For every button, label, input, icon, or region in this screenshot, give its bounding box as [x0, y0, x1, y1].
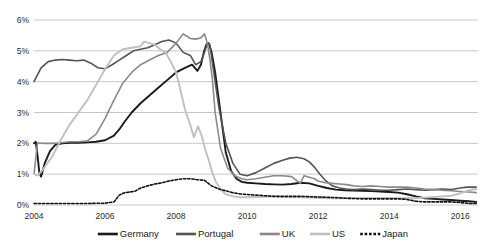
x-tick-label: 2014: [380, 211, 399, 221]
y-axis-tick-labels: 0%1%2%3%4%5%6%: [17, 15, 30, 210]
y-tick-label: 6%: [17, 15, 30, 25]
legend-label-us: US: [332, 228, 345, 239]
legend-label-uk: UK: [282, 228, 296, 239]
x-tick-label: 2012: [309, 211, 328, 221]
y-tick-label: 5%: [17, 46, 30, 56]
y-tick-label: 0%: [17, 200, 30, 210]
x-axis-tick-labels: 2004200620082010201220142016: [25, 211, 470, 221]
series-line-us: [34, 42, 476, 199]
legend-label-portugal: Portugal: [198, 228, 233, 239]
x-tick-label: 2008: [167, 211, 186, 221]
x-tick-label: 2016: [451, 211, 470, 221]
y-tick-label: 4%: [17, 77, 30, 87]
line-chart: 0%1%2%3%4%5%6% 2004200620082010201220142…: [0, 0, 500, 248]
y-tick-label: 1%: [17, 169, 30, 179]
x-tick-label: 2006: [96, 211, 115, 221]
series-line-portugal: [34, 40, 476, 190]
legend-label-japan: Japan: [382, 228, 408, 239]
data-series-group: [34, 34, 476, 204]
gridlines: [34, 20, 478, 205]
x-tick-label: 2004: [25, 211, 44, 221]
y-tick-label: 2%: [17, 138, 30, 148]
legend-label-germany: Germany: [120, 228, 159, 239]
chart-legend: GermanyPortugalUKUSJapan: [98, 228, 408, 239]
chart-container: 0%1%2%3%4%5%6% 2004200620082010201220142…: [0, 0, 500, 248]
x-tick-label: 2010: [238, 211, 257, 221]
series-line-uk: [34, 34, 476, 193]
y-tick-label: 3%: [17, 108, 30, 118]
